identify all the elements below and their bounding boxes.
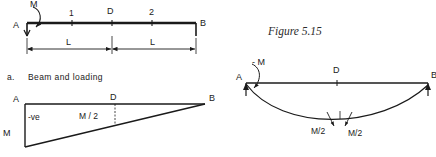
deflection-moment-label: - M	[252, 57, 265, 67]
deflection-label-a: A	[236, 72, 242, 82]
support-label-a: A	[13, 20, 19, 30]
deflection-label-b: B	[431, 70, 436, 80]
panel-a-caption-text: Beam and loading	[28, 72, 103, 82]
dimension-label-right: L	[150, 37, 155, 47]
slope-label-left: M/2	[311, 126, 325, 136]
panel-a-caption-letter: a.	[7, 72, 15, 82]
bmd-label-a: A	[13, 94, 19, 104]
slope-label-right: M/2	[348, 128, 362, 138]
dimension-label-left: L	[66, 37, 71, 47]
bmd-ordinate-label-m: M	[3, 128, 11, 138]
figure-caption: Figure 5.15	[267, 25, 322, 38]
station-label-d: D	[107, 6, 114, 16]
figure-canvas: A B M 1 D 2 L L a. Beam and loading	[0, 0, 436, 157]
figure-5-15: A B M 1 D 2 L L a. Beam and loading	[0, 0, 436, 157]
bmd-label-d: D	[110, 92, 117, 102]
bmd-sign-label: -ve	[28, 112, 40, 122]
station-label-2: 2	[149, 7, 154, 17]
bmd-label-b: B	[209, 93, 215, 103]
bmd-midspan-label-m-over-2: M / 2	[79, 111, 98, 121]
station-label-1: 1	[69, 8, 74, 18]
deflection-label-d: D	[333, 65, 340, 75]
support-label-b: B	[200, 18, 206, 28]
moment-label-m: M	[30, 0, 38, 9]
